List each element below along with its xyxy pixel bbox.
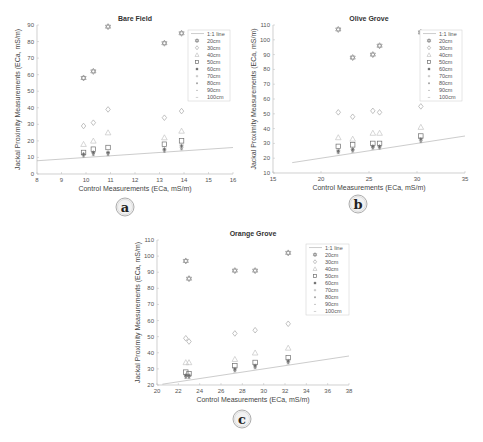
chart-title: Orange Grove [230,230,277,238]
x-tick-label: 34 [303,388,310,394]
y-tick-label: 20 [27,138,34,144]
legend-entry: 80cm [439,80,453,86]
series-20cm [81,24,184,81]
legend-entry: 30cm [439,45,453,51]
series-30cm [81,107,183,129]
y-tick-label: 20 [147,382,154,388]
legend-entry: 100cm [207,94,224,100]
y-tick-label: 10 [263,170,270,176]
y-axis-label: Jackal Proximity Measurements (ECa, mS/m… [14,29,22,170]
legend-entry: 70cm [325,287,339,293]
x-tick-label: 12 [132,177,139,183]
y-axis-label: Jackal Proximity Measurements (ECa, mS/m… [250,28,258,169]
y-tick-label: 40 [263,126,270,132]
y-tick-label: 90 [27,22,34,28]
legend-entry: 90cm [207,87,221,93]
x-tick-label: 11 [107,177,114,183]
legend-entry: 40cm [207,52,221,58]
y-tick-label: 70 [27,55,34,61]
y-tick-label: 80 [147,285,154,291]
series-20cm [336,26,424,60]
x-tick-label: 30 [414,176,421,182]
y-tick-label: 40 [27,105,34,111]
panel-label-b: b [349,195,367,213]
legend-entry: 1:1 line [207,31,225,37]
series-30cm [336,104,423,120]
y-tick-label: 70 [263,81,270,87]
svg-text:a: a [121,200,130,215]
legend-entry: 20cm [325,252,339,258]
legend-entry: 60cm [439,66,453,72]
y-tick-label: 50 [147,334,154,340]
y-tick-label: 80 [263,66,270,72]
legend-entry: 80cm [207,80,221,86]
legend: 1:1 line20cm30cm40cm50cm60cm70cm80cm90cm… [306,244,349,315]
legend: 1:1 line20cm30cm40cm50cm60cm70cm80cm90cm… [188,30,230,101]
x-tick-label: 15 [205,177,212,183]
chart-panel-a: 89101112131415160102030405060708090Bare … [14,15,237,193]
legend-entry: 70cm [439,73,453,79]
legend-entry: 100cm [439,94,456,100]
chart-title: Bare Field [118,15,152,22]
y-tick-label: 100 [260,37,271,43]
x-tick-label: 15 [270,176,277,182]
series-40cm [183,345,291,365]
y-tick-label: 100 [144,253,155,259]
series-90cm [83,148,183,157]
x-tick-label: 32 [282,388,289,394]
legend-entry: 40cm [325,266,339,272]
chart-panel-c: 2022242628303234363820304050607080901001… [134,230,353,404]
y-tick-label: 110 [260,22,270,28]
x-tick-label: 14 [181,177,188,183]
x-axis-label: Control Measurements (ECa, mS/m) [78,185,191,193]
x-axis-label: Control Measurements (ECa, mS/m) [312,184,425,192]
y-tick-label: 60 [147,318,154,324]
series-40cm [335,124,423,141]
series-50cm [81,139,183,155]
x-tick-label: 13 [156,177,163,183]
series-70cm [82,146,183,157]
x-tick-label: 26 [218,388,225,394]
x-tick-label: 30 [260,388,267,394]
legend-entry: 30cm [207,45,221,51]
figure: 89101112131415160102030405060708090Bare … [0,0,483,442]
legend: 1:1 line20cm30cm40cm50cm60cm70cm80cm90cm… [420,30,462,101]
panel-label-c: c [233,410,251,428]
x-tick-label: 22 [175,388,182,394]
x-tick-label: 20 [154,388,161,394]
y-tick-label: 40 [147,350,154,356]
y-tick-label: 30 [147,366,154,372]
panel-label-a: a [116,198,134,216]
y-tick-label: 60 [263,96,270,102]
legend-entry: 1:1 line [325,245,343,251]
x-tick-label: 28 [239,388,246,394]
x-tick-label: 10 [83,177,90,183]
legend-entry: 80cm [325,294,339,300]
legend-entry: 40cm [439,52,453,58]
series-100cm [82,150,183,157]
chart-panel-b: 1520253035102030405060708090100110Olive … [250,15,469,192]
legend-entry: 70cm [207,73,221,79]
legend-entry: 20cm [439,38,453,44]
svg-text:b: b [353,197,362,212]
y-tick-label: 70 [147,301,154,307]
x-tick-label: 16 [230,177,237,183]
x-axis-label: Control Measurements (ECa, mS/m) [196,396,309,404]
x-tick-label: 9 [60,177,64,183]
legend-entry: 50cm [439,59,453,65]
one-to-one-line [37,148,233,161]
y-tick-label: 30 [27,121,34,127]
series-40cm [81,128,185,146]
y-tick-label: 90 [263,52,270,58]
legend-entry: 1:1 line [439,31,457,37]
legend-entry: 90cm [439,87,453,93]
x-tick-label: 36 [324,388,331,394]
legend-entry: 20cm [207,38,221,44]
legend-entry: 50cm [207,59,221,65]
legend-entry: 60cm [207,66,221,72]
y-tick-label: 30 [263,140,270,146]
y-tick-label: 80 [27,39,34,45]
y-tick-label: 110 [144,237,154,243]
svg-text:c: c [238,412,246,427]
y-tick-label: 90 [147,269,154,275]
